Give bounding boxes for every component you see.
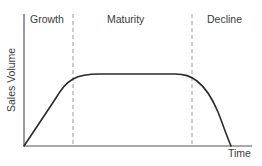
- phase-label-growth: Growth: [30, 14, 64, 25]
- phase-label-maturity: Maturity: [107, 14, 144, 25]
- product-life-cycle-diagram: Growth Maturity Decline Time Sales Volum…: [0, 0, 262, 166]
- sales-volume-curve: [24, 74, 231, 146]
- x-axis-label: Time: [228, 148, 251, 159]
- phase-label-decline: Decline: [207, 14, 242, 25]
- y-axis-label: Sales Volume: [6, 48, 17, 112]
